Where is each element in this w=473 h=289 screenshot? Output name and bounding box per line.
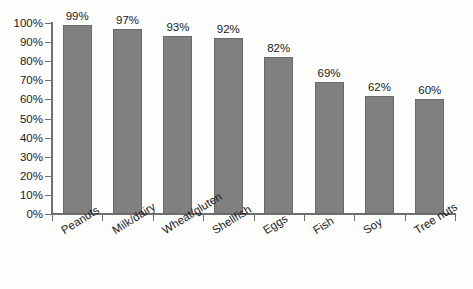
y-tick-label: 100%	[0, 17, 43, 29]
x-tick-mark	[52, 215, 53, 221]
x-tick-mark	[405, 215, 406, 221]
y-tick-label: 60%	[0, 93, 43, 105]
x-tick-mark	[153, 215, 154, 221]
bar-value-label: 92%	[217, 23, 240, 35]
bar	[163, 36, 192, 214]
y-tick-mark	[45, 176, 51, 177]
bar-value-label: 93%	[166, 21, 189, 33]
plot-area: 99%97%93%92%82%69%62%60%	[52, 23, 455, 214]
y-tick-mark	[45, 195, 51, 196]
bar-value-label: 69%	[318, 67, 341, 79]
bar-value-label: 82%	[267, 42, 290, 54]
bar	[415, 99, 444, 214]
x-category-label: Eggs	[261, 212, 290, 236]
y-tick-mark	[45, 42, 51, 43]
y-tick-label: 0%	[0, 208, 43, 220]
y-tick-label: 90%	[0, 36, 43, 48]
bar-value-label: 60%	[418, 84, 441, 96]
x-tick-mark	[304, 215, 305, 221]
bar-value-label: 99%	[66, 10, 89, 22]
x-category-label: Soy	[361, 215, 384, 236]
y-tick-label: 80%	[0, 55, 43, 67]
bar	[315, 82, 344, 214]
y-tick-mark	[45, 80, 51, 81]
bar-value-label: 97%	[116, 14, 139, 26]
y-tick-mark	[45, 138, 51, 139]
y-tick-label: 40%	[0, 132, 43, 144]
x-category-label: Fish	[311, 214, 336, 236]
bar	[365, 96, 394, 214]
y-tick-mark	[45, 157, 51, 158]
bar	[113, 29, 142, 214]
y-tick-mark	[45, 119, 51, 120]
bar	[214, 38, 243, 214]
y-tick-label: 50%	[0, 113, 43, 125]
x-tick-mark	[254, 215, 255, 221]
y-tick-mark	[45, 99, 51, 100]
x-tick-mark	[455, 215, 456, 221]
y-tick-label: 70%	[0, 74, 43, 86]
y-tick-label: 30%	[0, 151, 43, 163]
bar	[63, 25, 92, 214]
y-tick-label: 20%	[0, 170, 43, 182]
bar-value-label: 62%	[368, 81, 391, 93]
y-tick-mark	[45, 61, 51, 62]
x-tick-mark	[354, 215, 355, 221]
y-tick-mark	[45, 23, 51, 24]
x-tick-mark	[203, 215, 204, 221]
y-tick-mark	[45, 214, 51, 215]
x-tick-mark	[102, 215, 103, 221]
bar	[264, 57, 293, 214]
y-tick-label: 10%	[0, 189, 43, 201]
bar-chart: 0%10%20%30%40%50%60%70%80%90%100% 99%97%…	[0, 0, 473, 289]
